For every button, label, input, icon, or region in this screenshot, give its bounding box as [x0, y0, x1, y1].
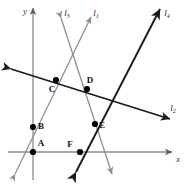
point-label-A: A: [38, 138, 45, 148]
point-B[interactable]: [30, 124, 36, 130]
point-label-F: F: [67, 139, 73, 149]
point-label-D: D: [87, 75, 94, 85]
x-axis-label: x: [175, 154, 180, 164]
line-label-l2: l2: [170, 103, 176, 114]
point-label-C: C: [49, 84, 56, 94]
point-E[interactable]: [92, 121, 98, 127]
lines-group: [11, 9, 170, 174]
point-label-E: E: [99, 120, 105, 130]
line-label-l4: l4: [164, 8, 170, 19]
geometry-figure: ABCDEF x y l1l3l2l4: [0, 0, 190, 184]
line-label-l1: l1: [93, 8, 99, 19]
point-label-B: B: [38, 121, 44, 131]
line-labels-group: l1l3l2l4: [64, 8, 176, 114]
point-D[interactable]: [84, 86, 90, 92]
line-label-l3: l3: [64, 8, 70, 19]
point-A[interactable]: [30, 149, 36, 155]
point-F[interactable]: [77, 149, 83, 155]
y-axis-label: y: [22, 6, 27, 16]
diagram-canvas: ABCDEF x y l1l3l2l4: [0, 0, 190, 184]
point-C[interactable]: [53, 77, 59, 83]
